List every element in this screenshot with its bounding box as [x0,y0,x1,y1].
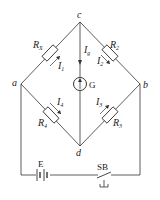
current-i3-label: I3 [95,96,102,108]
current-i4-label: I4 [56,96,63,108]
node-d-label: d [76,147,82,158]
current-ig-label: Ig [83,44,90,56]
galvanometer-icon [74,78,87,91]
resistor-r4-label: R4 [37,117,47,129]
resistor-r3-label: R3 [112,117,122,129]
node-b-label: b [143,79,148,90]
wheatstone-bridge-diagram: E SB RX I1 R2 I2 R4 I4 R3 [0,0,160,200]
pushbutton-switch-icon[interactable] [97,172,111,187]
current-i1-label: I1 [57,60,64,72]
battery-icon [36,168,50,182]
current-i2-label: I2 [96,55,103,67]
galvanometer-label: G [89,80,96,90]
switch-label: SB [97,162,108,172]
resistor-r2-label: R2 [109,39,119,51]
node-a-label: a [12,77,17,88]
resistor-rx-label: RX [32,39,43,51]
current-ig-arrow-icon [78,60,82,65]
resistor-rx-icon [42,45,58,61]
node-c-label: c [77,9,82,20]
battery-label: E [38,159,44,169]
